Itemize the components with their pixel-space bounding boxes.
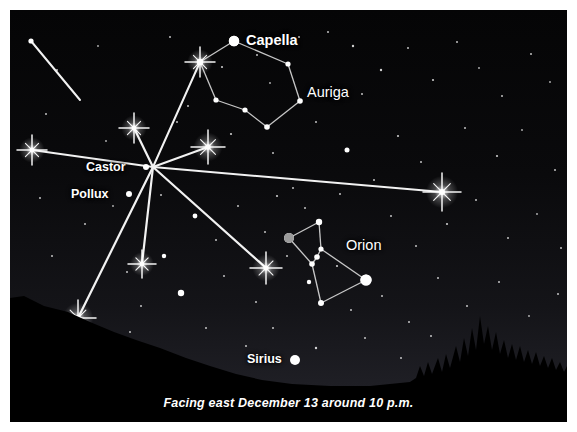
- field-star: [169, 36, 171, 38]
- field-star: [397, 135, 399, 137]
- field-star: [264, 231, 266, 233]
- sky-canvas: CapellaAurigaCastorPolluxOrionSirius Fac…: [10, 10, 567, 422]
- field-star: [536, 213, 538, 215]
- field-star: [400, 357, 402, 359]
- constellation-star-orion: [314, 254, 320, 260]
- field-star: [255, 301, 257, 303]
- field-star: [298, 36, 300, 38]
- field-star: [112, 205, 114, 207]
- constellation-star-auriga: [285, 61, 290, 66]
- field-star: [315, 121, 317, 123]
- field-star: [339, 193, 341, 195]
- field-star: [140, 305, 142, 307]
- field-star: [269, 82, 271, 84]
- field-star: [84, 223, 86, 225]
- field-star: [557, 293, 559, 295]
- field-star: [496, 155, 498, 157]
- field-star: [51, 255, 53, 257]
- field-star: [45, 113, 47, 115]
- field-star: [420, 161, 422, 163]
- field-star: [464, 127, 466, 129]
- field-star: [350, 309, 352, 311]
- field-star: [507, 237, 509, 239]
- field-star: [437, 277, 439, 279]
- constellation-star-auriga: [197, 59, 203, 65]
- star-castor: [143, 164, 149, 170]
- field-star: [162, 254, 166, 258]
- constellation-star-orion: [318, 246, 323, 251]
- constellation-star-orion: [318, 300, 324, 306]
- chart-caption: Facing east December 13 around 10 p.m.: [10, 396, 567, 410]
- field-star: [160, 194, 162, 196]
- star-pollux: [126, 191, 132, 197]
- field-star: [178, 290, 184, 296]
- constellation-star-auriga: [242, 107, 247, 112]
- field-star: [292, 187, 294, 189]
- field-star: [315, 347, 317, 349]
- field-star: [381, 295, 383, 297]
- field-star: [272, 152, 274, 154]
- field-star: [245, 345, 247, 347]
- field-star: [446, 223, 448, 225]
- constellation-star-auriga: [297, 98, 303, 104]
- field-star: [304, 207, 306, 209]
- constellation-star-orion: [307, 280, 311, 284]
- field-star: [361, 93, 363, 95]
- field-star: [549, 81, 551, 83]
- field-star: [466, 305, 468, 307]
- field-star: [498, 281, 500, 283]
- field-star: [352, 45, 354, 47]
- star-chart-figure: CapellaAurigaCastorPolluxOrionSirius Fac…: [0, 0, 577, 432]
- field-star: [528, 315, 530, 317]
- field-star: [475, 199, 477, 201]
- field-star: [256, 54, 258, 56]
- field-star: [521, 129, 523, 131]
- field-star: [390, 215, 392, 217]
- field-star: [560, 247, 562, 249]
- field-star: [364, 337, 366, 339]
- field-star: [432, 79, 434, 81]
- star-betelgeuse: [284, 233, 294, 243]
- field-star: [408, 321, 410, 323]
- field-star: [97, 45, 99, 47]
- constellation-star-auriga: [264, 124, 270, 130]
- field-star: [205, 327, 207, 329]
- field-star: [193, 214, 198, 219]
- field-star: [501, 95, 503, 97]
- field-star: [430, 335, 432, 337]
- field-star: [415, 245, 417, 247]
- field-star: [230, 133, 232, 135]
- field-star: [286, 255, 288, 257]
- field-star: [554, 169, 556, 171]
- constellation-star-orion: [316, 219, 322, 225]
- field-star: [237, 205, 239, 207]
- field-star: [478, 67, 480, 69]
- field-star: [345, 148, 350, 153]
- field-star: [187, 105, 189, 107]
- star-sirius: [290, 355, 300, 365]
- field-star: [126, 271, 128, 273]
- field-star: [39, 197, 41, 199]
- field-star: [276, 195, 278, 197]
- field-star: [176, 121, 178, 123]
- field-star: [129, 331, 131, 333]
- field-star: [530, 53, 532, 55]
- star-capella: [229, 36, 239, 46]
- field-star: [223, 275, 225, 277]
- field-star: [221, 66, 223, 68]
- field-star: [105, 140, 107, 142]
- sky-svg: [10, 10, 567, 422]
- field-star: [336, 265, 338, 267]
- field-star: [327, 31, 329, 33]
- constellation-star-orion: [309, 261, 315, 267]
- field-star: [215, 239, 217, 241]
- field-star: [407, 47, 409, 49]
- star-rigel: [360, 274, 371, 285]
- field-star: [380, 69, 382, 71]
- field-star: [456, 41, 458, 43]
- constellation-star-auriga: [213, 97, 218, 102]
- field-star: [373, 179, 375, 181]
- field-star: [272, 327, 274, 329]
